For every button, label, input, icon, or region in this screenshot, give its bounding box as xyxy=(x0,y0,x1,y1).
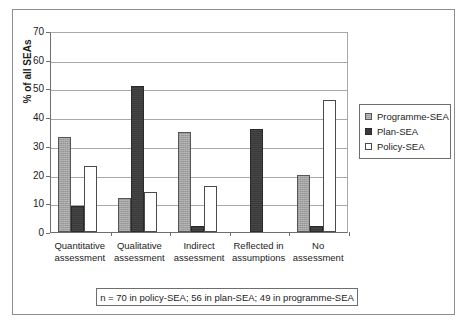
y-axis-tick-label: 60 xyxy=(18,56,44,66)
legend-label: Programme-SEA xyxy=(377,111,449,122)
gridline xyxy=(51,62,347,63)
legend-swatch-programme-icon xyxy=(365,113,372,120)
bar-policy-3 xyxy=(204,186,217,232)
bar-plan-1 xyxy=(71,206,84,232)
y-axis-tick-label: 40 xyxy=(18,113,44,123)
bar-plan-3 xyxy=(191,226,204,232)
category-label-line: Indirect xyxy=(169,240,229,252)
bar-policy-5 xyxy=(323,100,336,232)
category-label-line: assessment xyxy=(110,252,170,264)
x-axis-category-labels: QuantitativeassessmentQualitativeassessm… xyxy=(50,240,348,270)
bar-policy-1 xyxy=(84,166,97,232)
legend-label: Policy-SEA xyxy=(377,141,425,152)
bar-programme-3 xyxy=(178,132,191,233)
legend-item-plan[interactable]: Plan-SEA xyxy=(365,124,446,139)
y-axis-tick-label: 20 xyxy=(18,171,44,181)
legend-swatch-policy-icon xyxy=(365,143,372,150)
y-axis-tick-label: 30 xyxy=(18,142,44,152)
category-label-line: No xyxy=(288,240,348,252)
category-label-line: assessment xyxy=(169,252,229,264)
category-label-line: Quantitative xyxy=(50,240,110,252)
bar-policy-2 xyxy=(144,192,157,232)
x-axis-tick-mark xyxy=(170,232,171,236)
bar-plan-2 xyxy=(131,86,144,232)
category-label-line: assessment xyxy=(50,252,110,264)
y-axis-tick-label: 70 xyxy=(18,27,44,37)
category-label-line: assessment xyxy=(288,252,348,264)
x-axis-category-label-1: Quantitativeassessment xyxy=(50,240,110,270)
x-axis-tick-mark xyxy=(349,232,350,236)
gridline xyxy=(51,90,347,91)
x-axis-tick-mark xyxy=(230,232,231,236)
y-axis-tick-label: 10 xyxy=(18,199,44,209)
bar-programme-5 xyxy=(297,175,310,232)
plot-area xyxy=(50,32,348,233)
category-label-line: assumptions xyxy=(229,252,289,264)
x-axis-category-label-3: Indirectassessment xyxy=(169,240,229,270)
chart-figure: % of all SEAs 010203040506070 Quantitati… xyxy=(0,0,467,325)
bar-plan-4 xyxy=(250,129,263,232)
caption-text: n = 70 in policy-SEA; 56 in plan-SEA; 49… xyxy=(100,292,354,303)
bar-programme-2 xyxy=(118,198,131,232)
category-label-line: Qualitative xyxy=(110,240,170,252)
x-axis-tick-mark xyxy=(289,232,290,236)
legend-item-programme[interactable]: Programme-SEA xyxy=(365,109,446,124)
bar-programme-1 xyxy=(58,137,71,232)
legend-item-policy[interactable]: Policy-SEA xyxy=(365,139,446,154)
y-axis-tick-mark xyxy=(46,233,50,234)
chart-legend: Programme-SEAPlan-SEAPolicy-SEA xyxy=(359,104,451,159)
gridline xyxy=(51,119,347,120)
caption-box: n = 70 in policy-SEA; 56 in plan-SEA; 49… xyxy=(96,288,358,306)
x-axis-category-label-4: Reflected inassumptions xyxy=(229,240,289,270)
y-axis-tick-label: 50 xyxy=(18,84,44,94)
category-label-line: Reflected in xyxy=(229,240,289,252)
legend-swatch-plan-icon xyxy=(365,128,372,135)
gridline xyxy=(51,148,347,149)
x-axis-category-label-2: Qualitativeassessment xyxy=(110,240,170,270)
x-axis-category-label-5: Noassessment xyxy=(288,240,348,270)
x-axis-tick-mark xyxy=(111,232,112,236)
legend-label: Plan-SEA xyxy=(377,126,418,137)
y-axis-tick-label: 0 xyxy=(18,228,44,238)
bar-plan-5 xyxy=(310,226,323,232)
